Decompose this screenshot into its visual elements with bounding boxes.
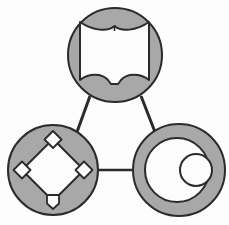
node-top[interactable] (68, 8, 162, 102)
small-circle-icon (180, 154, 212, 186)
diagram-svg (0, 0, 229, 225)
diagram-canvas (0, 0, 229, 225)
node-bottom-left[interactable] (8, 125, 98, 215)
connector-top-left (77, 96, 90, 132)
book-icon (80, 22, 149, 84)
connector-top-right (141, 96, 155, 132)
node-bottom-right[interactable] (133, 124, 225, 216)
